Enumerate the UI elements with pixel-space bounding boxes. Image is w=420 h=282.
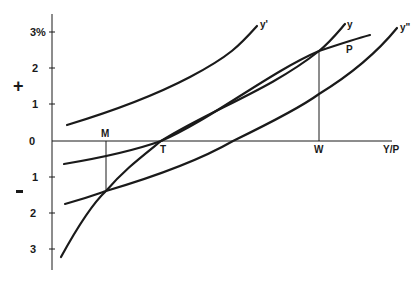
ytick-2-pos: 2 <box>32 62 38 74</box>
label-y: y <box>347 19 353 30</box>
ytick-2-neg: 2 <box>30 207 36 219</box>
curve-P <box>64 35 370 164</box>
label-y-double-prime: y" <box>400 22 411 33</box>
plus-sign-label: + <box>13 76 24 96</box>
curve-y-prime <box>67 26 257 125</box>
ytick-1-neg: 1 <box>32 171 38 183</box>
ytick-1-pos: 1 <box>32 98 38 110</box>
ytick-3-pos: 3% <box>30 26 46 38</box>
label-M: M <box>101 128 109 139</box>
label-y-prime: y' <box>260 19 268 30</box>
ytick-0: 0 <box>29 135 35 147</box>
label-P: P <box>346 44 353 55</box>
chart: 3% 2 1 0 1 2 3 + y' y y" P M T W Y/P <box>0 0 420 282</box>
label-T: T <box>160 144 166 155</box>
label-W: W <box>314 144 324 155</box>
ytick-3-neg: 3 <box>30 243 36 255</box>
x-axis-label: Y/P <box>383 144 399 155</box>
minus-sign-label <box>16 190 23 193</box>
